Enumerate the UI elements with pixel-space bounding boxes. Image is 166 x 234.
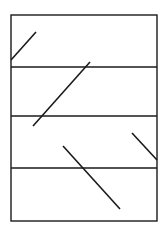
diagonal-segment bbox=[132, 133, 157, 160]
frame-rect bbox=[11, 15, 157, 221]
line-diagram bbox=[0, 0, 166, 234]
diagonal-segment bbox=[63, 146, 120, 209]
diagonal-segment bbox=[11, 32, 36, 60]
